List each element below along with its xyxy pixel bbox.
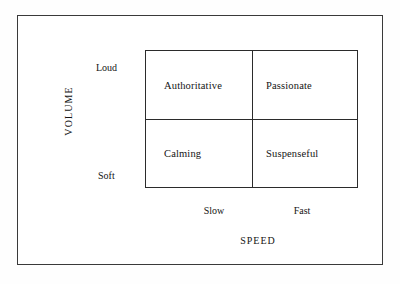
quadrant-cell-soft-slow: Calming [146, 120, 252, 187]
diagram-canvas: VOLUME Loud Soft Authoritative Passionat… [0, 0, 400, 284]
quadrant-cell-loud-slow: Authoritative [146, 51, 252, 119]
y-axis-tick-soft: Soft [98, 170, 115, 181]
quadrant-label-authoritative: Authoritative [164, 80, 222, 91]
quadrant-label-calming: Calming [164, 148, 201, 159]
quadrant-label-passionate: Passionate [266, 80, 312, 91]
x-axis-tick-fast: Fast [294, 205, 311, 216]
quadrant-cell-soft-fast: Suspenseful [253, 120, 357, 187]
y-axis-tick-loud: Loud [96, 62, 117, 73]
quadrant-label-suspenseful: Suspenseful [266, 148, 318, 159]
quadrant-matrix: Authoritative Passionate Calming Suspens… [145, 50, 358, 188]
y-axis-title: VOLUME [63, 86, 74, 135]
x-axis-tick-slow: Slow [204, 205, 225, 216]
x-axis-title: SPEED [240, 235, 276, 246]
quadrant-cell-loud-fast: Passionate [253, 51, 357, 119]
